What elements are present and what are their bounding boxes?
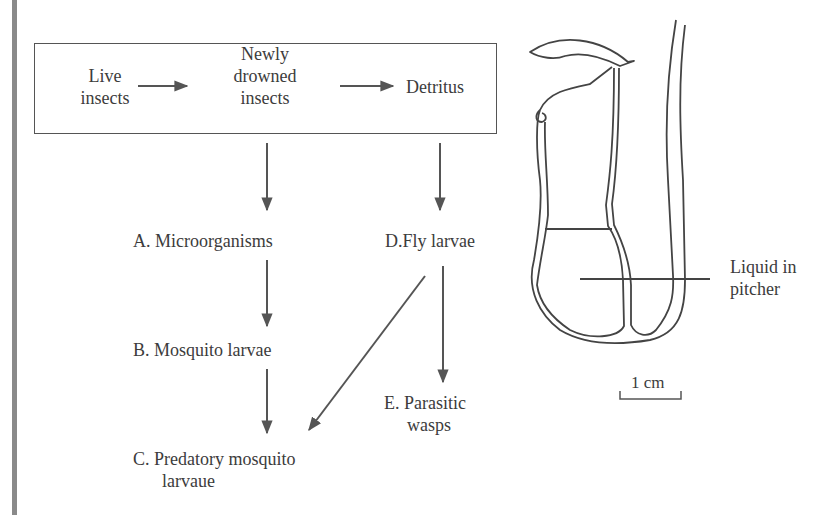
diagram-lines (0, 0, 839, 515)
scale-bar (620, 391, 681, 399)
arrow-d-to-c (309, 276, 425, 430)
pitcher-plant-drawing (530, 20, 710, 343)
